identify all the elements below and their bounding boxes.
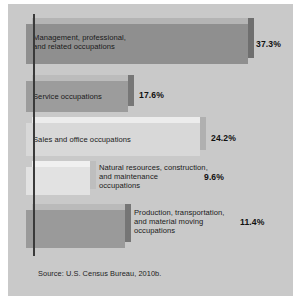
bar-value-2: 17.6% — [139, 90, 164, 100]
plot-area: Management, professional, and related oc… — [8, 4, 293, 296]
bar-value-5: 11.4% — [240, 217, 264, 227]
bar-front-5 — [26, 210, 125, 248]
bar-side-face-2 — [128, 75, 134, 106]
bar-top-face-4 — [32, 161, 96, 167]
bar-label-2: Service occupations — [33, 92, 133, 101]
bar-value-1: 37.3% — [256, 39, 281, 49]
bar-top-face-5 — [32, 204, 131, 210]
bar-value-4: 9.6% — [204, 172, 224, 182]
bar-side-face-4 — [90, 161, 96, 189]
bar-top-face-2 — [32, 75, 134, 81]
bar-label-3: Sales and office occupations — [33, 135, 193, 144]
figure-bar-chart: Management, professional, and related oc… — [0, 0, 307, 308]
bar-group-5[interactable] — [26, 210, 125, 248]
source-note: Source: U.S. Census Bureau, 2010b. — [38, 269, 161, 278]
bar-top-face-3 — [32, 117, 206, 123]
category-axis-line — [33, 14, 35, 256]
bar-top-face-1 — [32, 18, 254, 24]
bar-group-4[interactable] — [26, 167, 90, 195]
bar-label-1: Management, professional, and related oc… — [33, 33, 233, 51]
bar-side-face-3 — [200, 117, 206, 150]
bar-side-face-5 — [125, 204, 131, 242]
bar-front-4 — [26, 167, 90, 195]
bar-value-3: 24.2% — [211, 133, 236, 143]
bar-side-face-1 — [248, 18, 254, 58]
chart-panel: Management, professional, and related oc… — [8, 4, 293, 296]
